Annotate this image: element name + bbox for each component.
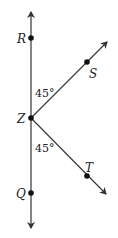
label-t: T: [85, 161, 94, 175]
angle-label-lower: 45°: [35, 142, 55, 155]
label-q: Q: [16, 187, 26, 201]
label-s: S: [89, 67, 97, 81]
label-z: Z: [16, 112, 26, 126]
point-r: [28, 35, 34, 41]
point-z: [28, 115, 34, 121]
angle-diagram: R S Z T Q 45° 45°: [0, 0, 118, 238]
point-q: [28, 190, 34, 196]
angle-label-upper: 45°: [35, 87, 55, 100]
ray-zt: [31, 118, 106, 194]
point-s: [84, 59, 90, 65]
label-r: R: [16, 32, 26, 46]
